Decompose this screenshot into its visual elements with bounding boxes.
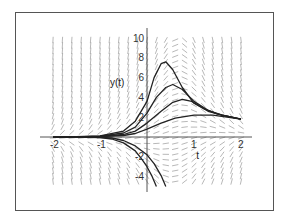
slope-segment (81, 59, 82, 65)
slope-segment (211, 97, 214, 103)
slope-segment (228, 132, 234, 133)
slope-segment (200, 127, 206, 128)
slope-segment (69, 142, 74, 146)
slope-segment (211, 103, 215, 108)
slope-segment (62, 168, 63, 174)
slope-segment (172, 176, 178, 177)
slope-segment (192, 168, 196, 173)
slope-segment (52, 102, 53, 108)
slope-segment (172, 110, 178, 112)
slope-segment (81, 86, 82, 92)
slope-segment (126, 152, 131, 156)
slope-segment (230, 108, 233, 114)
slope-segment (109, 37, 110, 43)
slope-segment (52, 162, 53, 168)
slope-segment (182, 169, 187, 173)
slope-segment (182, 38, 187, 42)
slope-segment (99, 162, 101, 168)
slope-segment (80, 108, 82, 114)
slope-segment (182, 148, 188, 150)
slope-segment (153, 154, 159, 156)
slope-segment (90, 178, 91, 184)
slope-segment (231, 53, 232, 59)
slope-segment (221, 97, 224, 103)
slope-segment (172, 66, 178, 68)
slope-segment (61, 151, 63, 157)
slope-segment (71, 168, 72, 174)
slope-segment (222, 48, 223, 54)
slope-segment (202, 86, 205, 91)
slope-segment (181, 127, 187, 128)
slope-segment (191, 132, 197, 133)
slope-segment (230, 157, 233, 163)
slope-segment (100, 64, 101, 70)
slope-segment (221, 70, 223, 76)
slope-segment (60, 141, 65, 145)
slope-segment (212, 42, 213, 48)
slope-segment (71, 173, 72, 179)
slope-segment (69, 130, 74, 134)
slope-segment (89, 124, 93, 129)
slope-segment (127, 162, 130, 168)
slope-segment (118, 53, 119, 59)
slope-segment (52, 124, 55, 130)
y-tick-label: 8 (138, 52, 144, 63)
y-tick-label: 6 (138, 72, 144, 83)
slope-segment (118, 102, 120, 108)
slope-segment (222, 59, 223, 65)
slope-segment (211, 168, 214, 174)
y-tick-label: 10 (133, 33, 145, 44)
slope-segment (154, 103, 158, 108)
slope-segment (79, 146, 83, 151)
slope-segment (52, 168, 53, 174)
slope-segment (229, 141, 234, 145)
slope-segment (81, 178, 82, 184)
slope-segment (108, 113, 111, 119)
slope-segment (61, 146, 64, 152)
slope-segment (240, 69, 241, 75)
slope-segment (240, 64, 241, 70)
slope-segment (153, 149, 159, 150)
slope-segment (172, 121, 178, 123)
slope-segment (210, 142, 216, 145)
slope-segment (172, 126, 178, 128)
slope-segment (202, 64, 204, 70)
slope-segment (71, 162, 73, 168)
slope-segment (230, 162, 232, 168)
slope-segment (62, 102, 63, 108)
slope-segment (128, 48, 129, 54)
slope-segment (99, 102, 101, 108)
slope-segment (172, 165, 178, 166)
slope-segment (182, 158, 188, 161)
slope-segment (172, 104, 178, 106)
slope-segment (172, 50, 178, 52)
slope-segment (127, 108, 130, 114)
slope-segment (163, 132, 169, 134)
slope-segment (172, 143, 178, 145)
slope-segment (221, 86, 223, 92)
slope-segment (212, 48, 213, 54)
slope-segment (52, 108, 53, 114)
slope-segment (71, 119, 73, 125)
slope-segment (51, 130, 55, 135)
slope-segment (108, 108, 110, 114)
slope-segment (90, 97, 91, 103)
slope-segment (231, 80, 233, 86)
slope-segment (164, 70, 168, 75)
slope-segment (52, 151, 54, 157)
slope-segment (127, 80, 129, 86)
slope-segment (231, 75, 232, 81)
slope-segment (192, 59, 195, 64)
slope-segment (182, 71, 188, 74)
slope-segment (118, 168, 120, 174)
slope-segment (90, 48, 91, 54)
slope-segment (62, 69, 63, 75)
slope-segment (238, 132, 244, 133)
slope-segment (80, 168, 81, 174)
slope-segment (155, 86, 158, 91)
slope-segment (62, 75, 63, 81)
slope-segment (240, 75, 241, 81)
slope-segment (221, 91, 223, 97)
slope-segment (117, 119, 120, 124)
slope-segment (89, 146, 93, 151)
